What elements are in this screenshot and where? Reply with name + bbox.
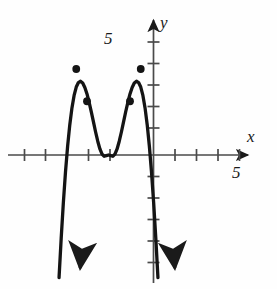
axes-group	[8, 20, 248, 283]
y-tick-label-5: 5	[104, 30, 113, 47]
marked-point	[137, 65, 145, 73]
left-branch-arrow	[80, 255, 81, 268]
coordinate-plot	[0, 0, 277, 289]
marked-point	[83, 97, 91, 105]
graph-figure: y x 5 5	[0, 0, 277, 289]
marked-point	[72, 65, 80, 73]
y-axis-label: y	[160, 14, 168, 31]
right-branch-arrow	[174, 255, 175, 268]
marked-point	[126, 97, 134, 105]
x-axis-label: x	[247, 128, 255, 145]
curve-group	[59, 81, 175, 277]
x-tick-label-5: 5	[232, 164, 241, 181]
polynomial-curve	[59, 81, 158, 277]
